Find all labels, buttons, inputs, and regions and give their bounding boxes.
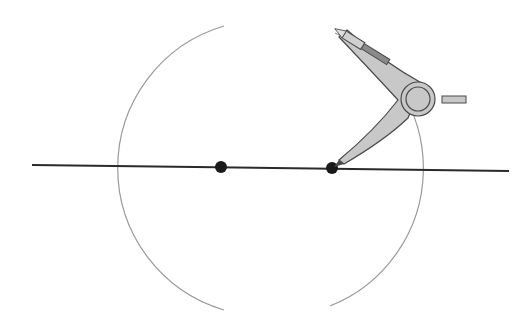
compass-icon <box>333 25 466 167</box>
compass-hinge-inner <box>406 87 430 111</box>
compass-handle <box>442 96 466 103</box>
base-line <box>32 165 509 171</box>
point-b <box>326 162 338 174</box>
point-a <box>215 161 227 173</box>
construction-svg <box>0 0 523 327</box>
diagram-canvas <box>0 0 523 327</box>
